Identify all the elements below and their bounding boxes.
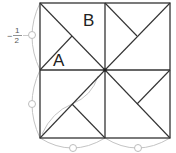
label-b: B bbox=[83, 11, 94, 30]
top-right-inner bbox=[105, 3, 137, 36]
inner-wavy-arc bbox=[42, 76, 98, 134]
fraction-denominator: 2 bbox=[15, 36, 20, 45]
bottom-right-inner bbox=[137, 70, 170, 104]
fraction-numerator: 1 bbox=[15, 26, 20, 35]
left-upper-marker bbox=[29, 32, 36, 39]
geometry-diagram: B A − 1 2 bbox=[0, 0, 176, 153]
fraction-sign: − bbox=[7, 31, 12, 41]
left-lower-marker bbox=[29, 101, 36, 108]
center-point bbox=[103, 68, 107, 72]
label-a: A bbox=[53, 51, 65, 70]
fraction-label: − 1 2 bbox=[7, 26, 29, 45]
bottom-left-marker bbox=[70, 145, 77, 152]
bottom-left-inner bbox=[72, 104, 105, 138]
bottom-right-marker bbox=[135, 145, 142, 152]
